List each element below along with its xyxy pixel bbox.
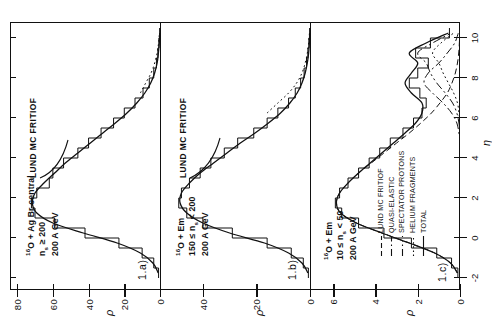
y-tick-label: 20 [119,299,130,310]
x-tick-label: 8 [469,75,480,80]
y-tick-label: 40 [83,299,94,310]
x-axis-label: η [480,140,492,146]
y-tick-label: 4 [370,299,381,305]
legend-item: QUASI-ELASTIC [387,151,398,257]
y-tick-inner [375,284,376,290]
x-tick-inner [454,237,460,238]
x-tick-inner [454,77,460,78]
x-tick-label: 2 [469,195,480,200]
y-tick [17,290,18,297]
legend-item: SPECTATOR PROTONS [397,151,408,257]
x-tick [460,237,467,238]
leader-line [10,22,160,290]
legend-item: LUND MC FRITIOF [376,151,387,257]
legend-key-dashed [378,236,385,256]
x-tick-inner [454,197,460,198]
panel-1b: 02040 1.b) 16O + Em150 ≤ ns < 200200 A G… [160,22,310,290]
panel-1a: 020406080 1.a) 16O + Ag Br centralns ≥ 2… [10,22,160,290]
y-tick-inner [418,284,419,290]
legend-key-dotted [410,236,417,256]
panel-1c-header: 16O + Em10 ≤ ns < 50200 A GeV [322,210,359,260]
legend-label: QUASI-ELASTIC [387,176,398,233]
legend-key-dashdot [388,236,395,256]
y-axis-label-c: ρ [403,310,415,316]
y-tick [160,290,161,297]
x-tick-label: 4 [469,155,480,160]
legend-key-dashdotdot [399,236,406,256]
y-axis-label-b: ρ [253,310,265,316]
y-tick-label: 0 [155,299,166,305]
y-tick [375,290,376,297]
x-tick-inner [454,277,460,278]
y-axis-label-a: ρ [103,310,115,316]
x-tick [460,197,467,198]
y-tick-inner [460,284,461,290]
header-line: 200 A GeV [348,210,359,260]
legend-key-solid [420,236,427,256]
x-tick [460,37,467,38]
y-tick [256,290,257,297]
leader-line [160,22,310,290]
y-tick-label: 0 [305,299,316,305]
y-tick [203,290,204,297]
y-tick-label: 80 [12,299,23,310]
y-tick [460,290,461,297]
y-tick-inner [333,284,334,290]
x-tick-label: 6 [469,115,480,120]
legend-label: HELIUM FRAGMENTS [408,156,419,233]
legend-item: TOTAL [419,151,430,257]
x-tick [460,157,467,158]
y-tick [310,290,311,297]
legend-label: LUND MC FRITIOF [376,168,387,233]
y-tick-label: 6 [328,299,339,305]
y-tick [418,290,419,297]
header-line: 10 ≤ ns < 50 [335,210,348,260]
y-tick [53,290,54,297]
legend-item: HELIUM FRAGMENTS [408,151,419,257]
panel-1c: 0246 -20246810 1.c) 16O + Em10 ≤ ns < 50… [310,22,460,290]
x-tick [460,277,467,278]
x-tick-inner [454,37,460,38]
x-tick [460,117,467,118]
x-tick-label: 10 [469,33,480,44]
y-tick-label: 0 [455,299,466,305]
y-tick-label: 60 [47,299,58,310]
y-tick-label: 2 [412,299,423,305]
y-tick-label: 40 [197,299,208,310]
y-tick [124,290,125,297]
x-tick-label: 0 [469,235,480,240]
x-tick-label: -2 [469,274,480,282]
header-line: 16O + Em [322,210,335,260]
x-tick-inner [454,157,460,158]
panel-1c-tag: 1.c) [436,262,448,282]
x-tick [460,77,467,78]
y-tick [333,290,334,297]
legend-label: TOTAL [419,210,430,233]
y-tick-label: 20 [251,299,262,310]
y-tick [89,290,90,297]
panel-1c-legend: LUND MC FRITIOFQUASI-ELASTICSPECTATOR PR… [376,151,429,257]
x-tick-inner [454,117,460,118]
legend-label: SPECTATOR PROTONS [397,151,408,234]
